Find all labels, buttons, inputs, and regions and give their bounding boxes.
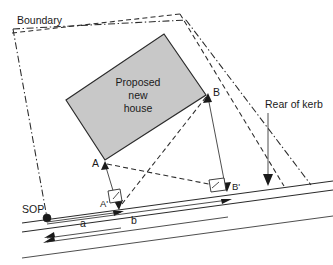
house-label-line1: Proposed [116, 76, 161, 88]
diagonal-a-to-bprime [107, 164, 224, 187]
road-line-lower [22, 216, 333, 258]
sop-label: SOP [22, 203, 44, 215]
dimension-b-arrowhead-right [221, 199, 232, 204]
house-label-line2: new [128, 89, 148, 101]
rear-of-kerb-line [22, 181, 333, 223]
sop-point-marker [43, 214, 51, 222]
house-label-line3: house [124, 102, 153, 114]
point-b-prime-label: B' [232, 181, 240, 192]
road-line-upper [22, 190, 333, 232]
dimension-a-label: a [80, 217, 86, 229]
rear-of-kerb-arrowhead [263, 174, 273, 186]
dimension-b-label: b [131, 214, 137, 226]
point-a-prime-label: A' [100, 198, 108, 209]
boundary-line-left [13, 29, 47, 218]
offset-line-b [208, 97, 226, 190]
survey-diagram-container: Boundary Proposed new house Rear of kerb… [0, 0, 333, 265]
survey-diagram: Boundary Proposed new house Rear of kerb… [0, 0, 333, 265]
arrowhead-a-up [101, 161, 109, 170]
rear-of-kerb-label: Rear of kerb [265, 98, 323, 110]
boundary-label: Boundary [17, 14, 63, 26]
point-a-label: A [92, 157, 99, 169]
point-b-label: B [213, 86, 220, 98]
right-angle-marker-b [209, 178, 226, 192]
